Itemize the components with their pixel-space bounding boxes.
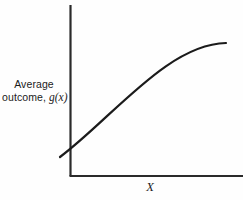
y-axis-label: Average outcome, g(x) xyxy=(2,78,66,104)
y-axis-label-line-2: outcome, g(x) xyxy=(2,91,66,104)
figure-container: Average outcome, g(x) X xyxy=(0,0,243,200)
y-axis-label-math: g(x) xyxy=(49,91,68,103)
x-axis-label: X xyxy=(138,180,162,195)
y-axis-label-line-1: Average xyxy=(2,78,66,91)
y-axis-label-text: outcome, xyxy=(2,91,46,103)
